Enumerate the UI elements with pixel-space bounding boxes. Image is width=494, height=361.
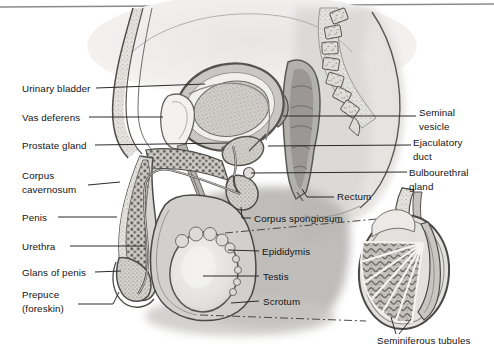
label-glans-of-penis: Glans of penis xyxy=(22,266,86,280)
label-ejaculatory-duct: Ejaculatory duct xyxy=(413,136,463,163)
testis-inset xyxy=(355,188,453,332)
label-scrotum: Scrotum xyxy=(263,295,300,309)
label-corpus-cavernosum: Corpus cavernosum xyxy=(22,169,76,196)
penis-shape xyxy=(113,156,158,307)
label-testis: Testis xyxy=(263,270,289,284)
label-urethra: Urethra xyxy=(22,240,55,254)
label-epididymis: Epididymis xyxy=(262,245,310,259)
label-rectum: Rectum xyxy=(337,190,371,204)
label-vas-deferens: Vas deferens xyxy=(22,111,80,125)
label-seminiferous-tubules: Seminiferous tubules xyxy=(377,334,471,348)
label-urinary-bladder: Urinary bladder xyxy=(22,82,90,96)
label-prostate-gland: Prostate gland xyxy=(22,139,87,153)
label-seminal-vesicle: Seminal vesicle xyxy=(419,106,455,133)
label-prepuce-foreskin: Prepuce (foreskin) xyxy=(22,288,64,315)
label-corpus-spongiosum: Corpus spongiosum xyxy=(254,212,343,226)
anatomy-figure: Urinary bladder Vas deferens Prostate gl… xyxy=(0,0,494,361)
label-penis: Penis xyxy=(22,211,47,225)
label-bulbourethral-gland: Bulbourethral gland xyxy=(409,166,469,193)
